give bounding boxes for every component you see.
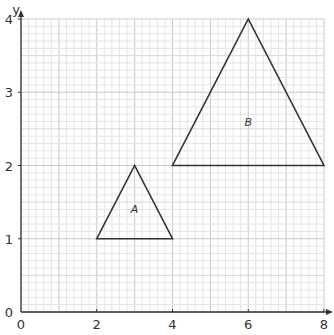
x-tick-label: 2 xyxy=(93,317,101,332)
y-tick-label: 3 xyxy=(5,85,13,100)
x-tick-label: 6 xyxy=(244,317,252,332)
x-axis-arrow-icon xyxy=(326,309,333,315)
triangle-b-label: B xyxy=(244,116,252,129)
coordinate-grid-diagram: y0246801234AB xyxy=(0,0,334,335)
y-tick-label: 1 xyxy=(5,232,13,247)
triangle-a-label: A xyxy=(130,203,139,216)
x-tick-label: 4 xyxy=(168,317,176,332)
y-axis-label: y xyxy=(12,2,20,17)
y-tick-label: 0 xyxy=(5,305,13,320)
y-tick-label: 2 xyxy=(5,159,13,174)
plot-area: y0246801234AB xyxy=(0,0,334,335)
x-tick-label: 8 xyxy=(320,317,328,332)
y-tick-label: 4 xyxy=(5,12,13,27)
x-tick-label: 0 xyxy=(17,317,25,332)
